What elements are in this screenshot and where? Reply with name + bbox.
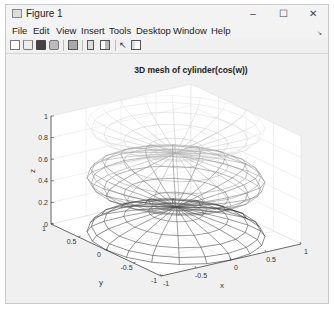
- z-tick-label: 0.4: [38, 177, 48, 184]
- x-tick-label: 0.5: [266, 256, 276, 263]
- z-tick-label: 1: [44, 113, 48, 120]
- y-tick-label: 1: [42, 225, 46, 232]
- menu-insert[interactable]: Insert: [81, 25, 105, 36]
- y-tick-label: 0: [97, 251, 101, 258]
- property-inspector-icon[interactable]: [131, 40, 141, 50]
- menu-desktop[interactable]: Desktop: [136, 25, 171, 36]
- figure-canvas: 3D mesh of cylinder(cos(w)) z y x 00.20.…: [6, 54, 328, 303]
- dock-arrow-icon[interactable]: ↘: [317, 29, 322, 36]
- title-bar: Figure 1 – ☐ ✕: [6, 5, 328, 23]
- link-plot-icon[interactable]: [87, 40, 94, 50]
- x-tick-label: -0.5: [195, 272, 207, 279]
- toolbar-separator: [82, 40, 83, 51]
- menu-view[interactable]: View: [56, 25, 76, 36]
- matlab-figure-icon: [12, 9, 22, 18]
- toolbar-separator: [63, 40, 64, 51]
- x-tick-label: 1: [304, 248, 308, 255]
- z-tick-label: 0.6: [38, 156, 48, 163]
- insert-colorbar-icon[interactable]: [100, 40, 110, 50]
- figure-toolbar: ↖: [6, 38, 328, 54]
- x-axis-label: x: [220, 281, 224, 290]
- y-tick-label: -1: [151, 277, 157, 284]
- x-tick-label: 0: [234, 264, 238, 271]
- menu-file[interactable]: File: [12, 25, 27, 36]
- open-file-icon[interactable]: [23, 40, 33, 50]
- y-tick-label: 0.5: [67, 238, 77, 245]
- y-tick-label: -0.5: [120, 264, 132, 271]
- mesh-plot[interactable]: 3D mesh of cylinder(cos(w)) z y x 00.20.…: [6, 54, 330, 305]
- y-axis-label: y: [99, 278, 103, 287]
- save-icon[interactable]: [36, 40, 46, 50]
- menu-help[interactable]: Help: [211, 25, 231, 36]
- menu-bar: File Edit View Insert Tools Desktop Wind…: [6, 23, 328, 38]
- menu-tools[interactable]: Tools: [109, 25, 131, 36]
- menu-edit[interactable]: Edit: [33, 25, 49, 36]
- print-icon[interactable]: [49, 40, 59, 50]
- x-tick-label: -1: [163, 280, 169, 287]
- menu-window[interactable]: Window: [173, 25, 207, 36]
- edit-plot-arrow-icon[interactable]: ↖: [119, 40, 129, 50]
- maximize-button[interactable]: ☐: [272, 7, 294, 21]
- z-tick-label: 0.8: [38, 134, 48, 141]
- print-preview-icon[interactable]: [68, 40, 78, 50]
- new-figure-icon[interactable]: [10, 40, 20, 50]
- z-axis-label: z: [28, 169, 37, 173]
- toolbar-separator: [115, 40, 116, 51]
- z-tick-label: 0.2: [38, 199, 48, 206]
- close-button[interactable]: ✕: [302, 7, 324, 21]
- figure-window: Figure 1 – ☐ ✕ File Edit View Insert Too…: [5, 4, 329, 304]
- minimize-button[interactable]: –: [242, 7, 264, 21]
- window-title: Figure 1: [26, 8, 63, 19]
- plot-title: 3D mesh of cylinder(cos(w)): [134, 65, 248, 75]
